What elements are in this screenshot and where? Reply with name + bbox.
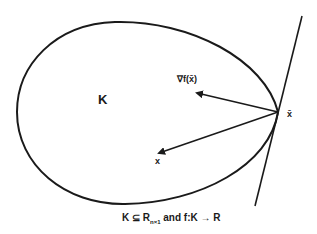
caption-subscript: n×1 [150, 219, 161, 225]
point-x-label: x [155, 157, 160, 166]
diagram-canvas [0, 0, 317, 234]
gradient-label: ∇f(x̄) [177, 75, 197, 84]
caption-suffix: and f:K → R [161, 212, 221, 223]
set-k-label: K [98, 93, 107, 106]
gradient-arrow [197, 93, 278, 112]
caption-prefix: K ⊆ R [122, 212, 150, 223]
point-xbar-label: x̄ [287, 110, 292, 119]
x-arrow [159, 112, 278, 153]
set-k-boundary [17, 22, 278, 204]
caption: K ⊆ Rn×1 and f:K → R [122, 213, 221, 225]
tangent-line [255, 16, 302, 206]
